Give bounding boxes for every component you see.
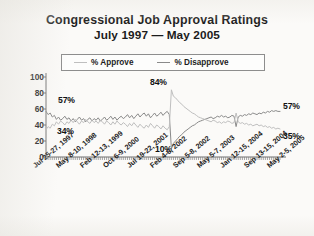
x-axis-labels: Jul 25-27, 1997May 8-10, 1998Feb 12-13, … [0, 0, 314, 236]
scanned-page: Congressional Job Approval Ratings July … [0, 0, 314, 236]
